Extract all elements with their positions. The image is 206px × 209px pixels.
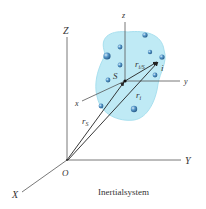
origin-S-label: S	[113, 71, 118, 81]
particle	[159, 54, 164, 59]
particle	[118, 45, 123, 50]
particle	[142, 32, 147, 37]
particle	[131, 106, 137, 112]
particle	[106, 78, 111, 83]
vector-r-S-label: rS	[82, 116, 89, 127]
X-axis-label: X	[11, 189, 19, 200]
point-S	[123, 79, 126, 82]
x-axis-local-label: x	[74, 99, 79, 108]
particle	[99, 104, 104, 109]
Y-axis-label: Y	[185, 155, 192, 166]
z-axis-local-label: z	[121, 11, 126, 20]
y-axis-local-label: y	[183, 77, 188, 86]
particle	[153, 73, 158, 78]
Z-axis-label: Z	[63, 25, 69, 36]
point-O	[66, 159, 68, 161]
vector-r-S	[67, 82, 124, 160]
diagram-caption: Inertialsystem	[98, 187, 149, 197]
particle	[148, 50, 152, 54]
inertial-system-diagram: Z Y X O z y x S i rS ri ri/S Inertialsys…	[0, 0, 206, 209]
particle	[118, 63, 123, 68]
particle	[103, 52, 110, 59]
origin-O-label: O	[62, 168, 69, 178]
X-axis	[22, 160, 67, 192]
